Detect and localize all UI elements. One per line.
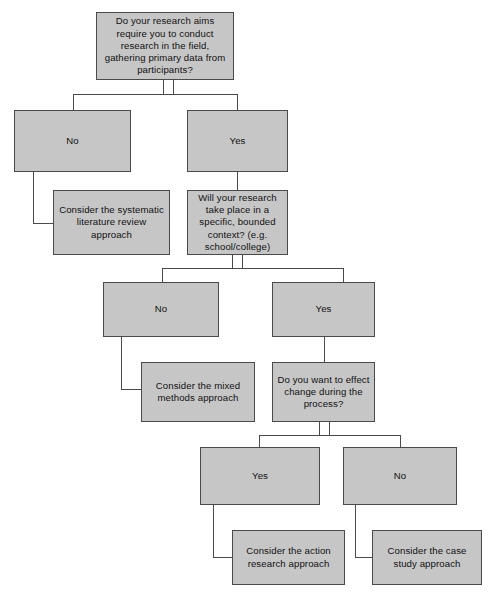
connector-c4-bar xyxy=(162,268,343,269)
connector-c1-left xyxy=(73,94,74,110)
node-q2-yes: Yes xyxy=(272,282,375,337)
node-q1-no: No xyxy=(14,110,131,172)
connector-c2-right xyxy=(33,223,54,224)
connector-c1-stub-a xyxy=(163,80,164,94)
node-q3-yes: Yes xyxy=(200,447,320,505)
connector-c1-stub-b xyxy=(173,80,174,94)
connector-c7-bar xyxy=(259,435,400,436)
node-out-systematic: Consider the systematic literature revie… xyxy=(53,190,170,255)
connector-c8-down xyxy=(213,505,214,557)
connector-c4-right xyxy=(343,268,344,283)
connector-c9-right xyxy=(355,557,373,558)
connector-c7-stub-a xyxy=(319,422,320,435)
connector-c1-bar xyxy=(73,94,238,95)
connector-c7-stub-b xyxy=(329,422,330,435)
node-q1-yes: Yes xyxy=(187,110,288,172)
node-out-mixed: Consider the mixed methods approach xyxy=(141,362,255,422)
node-q2-no: No xyxy=(103,282,219,337)
flowchart-canvas: Do your research aims require you to con… xyxy=(0,0,500,606)
connector-c4-stub-b xyxy=(242,255,243,268)
node-q3-no: No xyxy=(343,447,457,505)
connector-c3-down xyxy=(237,172,238,190)
node-q3: Do you want to effect change during the … xyxy=(272,362,375,422)
connector-c2-down xyxy=(33,172,34,223)
node-q1: Do your research aims require you to con… xyxy=(96,12,234,80)
connector-c5-right xyxy=(121,389,142,390)
connector-c4-stub-a xyxy=(232,255,233,268)
connector-c1-right xyxy=(237,94,238,110)
connector-c5-down xyxy=(121,337,122,389)
node-out-action: Consider the action research approach xyxy=(232,530,345,585)
connector-c4-left xyxy=(162,268,163,283)
connector-c8-right xyxy=(213,557,233,558)
node-q2: Will your research take place in a speci… xyxy=(187,190,288,255)
connector-c9-down xyxy=(355,505,356,557)
node-out-case: Consider the case study approach xyxy=(372,530,482,585)
connector-c6-down xyxy=(324,337,325,363)
